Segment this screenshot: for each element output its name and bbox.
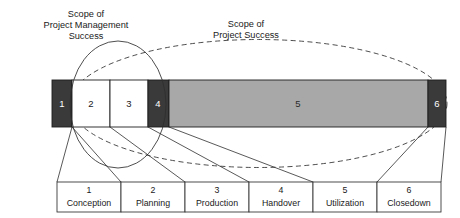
bar-segment-1-number: 1 bbox=[59, 98, 64, 109]
legend-cell-5-number: 5 bbox=[343, 185, 348, 195]
bar-segment-6-number: 6 bbox=[434, 98, 439, 109]
connector-seg3-right bbox=[148, 127, 249, 182]
connector-seg1-right bbox=[72, 127, 121, 182]
connector-seg1-left bbox=[57, 127, 72, 182]
legend-cell-2-label: Planning bbox=[136, 198, 170, 208]
scope-pm-success-line-3: Success bbox=[69, 31, 104, 41]
legend-cell-1-number: 1 bbox=[87, 185, 92, 195]
legend-cell-6-number: 6 bbox=[407, 185, 412, 195]
project-lifecycle-diagram: 1 2 3 4 5 6 1 bbox=[0, 0, 460, 218]
scope-project-success-label: Scope of Project Success bbox=[213, 19, 279, 40]
bar-segment-4-number: 4 bbox=[155, 98, 160, 109]
legend-cell-6-label: Closedown bbox=[387, 198, 431, 208]
legend-cell-5-label: Utilization bbox=[326, 198, 364, 208]
bar-segment-5-number: 5 bbox=[295, 98, 300, 109]
lifecycle-bar: 1 2 3 4 5 6 bbox=[52, 80, 446, 127]
scope-project-success-line-2: Project Success bbox=[213, 30, 279, 40]
bar-segment-3-number: 3 bbox=[126, 98, 131, 109]
legend-cell-4-number: 4 bbox=[279, 185, 284, 195]
diagram-canvas: 1 2 3 4 5 6 1 bbox=[0, 0, 460, 218]
bar-segment-2-number: 2 bbox=[88, 98, 93, 109]
legend-table: 1 2 3 4 5 6 Conception Planning Producti… bbox=[57, 182, 441, 212]
connector-seg4-right bbox=[169, 127, 313, 182]
scope-pm-success-label: Scope of Project Management Success bbox=[44, 9, 129, 41]
connector-seg5-right bbox=[377, 127, 428, 182]
scope-pm-success-line-2: Project Management bbox=[44, 20, 129, 30]
legend-cell-2-number: 2 bbox=[151, 185, 156, 195]
scope-pm-success-line-1: Scope of bbox=[68, 9, 105, 19]
scope-project-success-line-1: Scope of bbox=[228, 19, 265, 29]
legend-cell-1-label: Conception bbox=[67, 198, 112, 208]
connector-seg6-right bbox=[441, 127, 446, 182]
connector-seg2-right bbox=[110, 127, 185, 182]
legend-cell-3-label: Production bbox=[196, 198, 238, 208]
connector-lines bbox=[57, 127, 446, 182]
legend-cell-4-label: Handover bbox=[262, 198, 300, 208]
legend-cell-3-number: 3 bbox=[215, 185, 220, 195]
